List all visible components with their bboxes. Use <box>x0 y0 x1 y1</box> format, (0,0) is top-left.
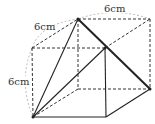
vertex-right <box>149 88 152 91</box>
thick-edge <box>78 19 150 89</box>
vertex-top <box>77 18 80 21</box>
label-height: 6cm <box>8 76 30 87</box>
hidden-edges <box>32 19 150 117</box>
vertex-bottom <box>32 116 35 119</box>
label-top: 6cm <box>104 3 126 14</box>
vertex-mid <box>104 47 107 50</box>
cube-diagram: 6cm 6cm 6cm <box>0 0 155 124</box>
label-depth: 6cm <box>34 21 56 32</box>
visible-edges <box>33 19 150 117</box>
